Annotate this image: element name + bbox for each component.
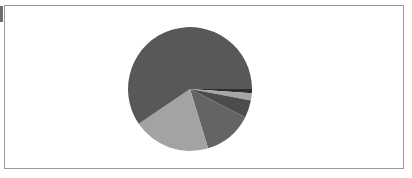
pie-chart: [0, 0, 412, 178]
pie-slices: [128, 27, 252, 151]
